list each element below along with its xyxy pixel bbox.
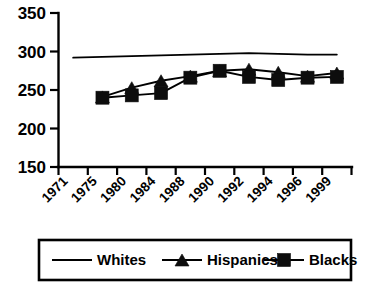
data-point-blacks	[242, 70, 255, 83]
legend-label-blacks: Blacks	[309, 251, 357, 268]
data-point-blacks	[301, 71, 314, 84]
legend-label-whites: Whites	[97, 251, 146, 268]
y-tick-label: 250	[18, 81, 46, 100]
y-tick-label: 350	[18, 4, 46, 23]
data-point-blacks	[184, 71, 197, 84]
data-point-blacks	[125, 89, 138, 102]
y-tick-label: 150	[18, 158, 46, 177]
chart-container: 150200250300350 197119751980198419881990…	[0, 0, 390, 293]
data-point-blacks	[272, 73, 285, 86]
data-point-blacks	[330, 70, 343, 83]
data-point-blacks	[155, 87, 168, 100]
legend-marker-blacks	[278, 254, 291, 267]
y-tick-label: 200	[18, 120, 46, 139]
data-point-blacks	[96, 91, 109, 104]
line-chart: 150200250300350 197119751980198419881990…	[0, 0, 390, 293]
data-point-blacks	[213, 64, 226, 77]
y-tick-label: 300	[18, 43, 46, 62]
